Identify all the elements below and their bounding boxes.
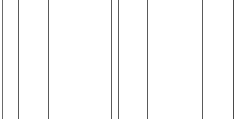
vertical-rule-3 [48,0,49,119]
vertical-rule-8 [233,0,234,119]
vertical-rule-5 [118,0,119,119]
vertical-rule-2 [18,0,19,119]
chart-canvas [0,0,242,119]
vertical-rule-4 [111,0,112,119]
vertical-rule-7 [202,0,203,119]
vertical-rule-1 [2,0,3,119]
vertical-rule-6 [147,0,148,119]
